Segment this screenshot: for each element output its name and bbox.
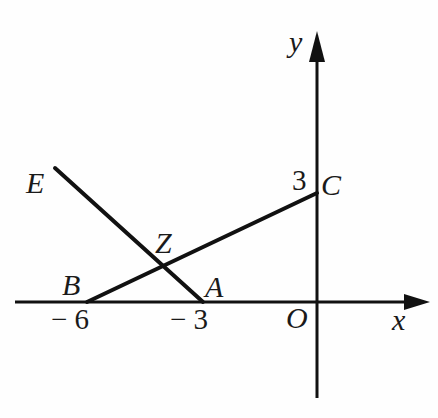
tick-label-3: 3 bbox=[292, 166, 307, 195]
origin-label: O bbox=[286, 303, 308, 333]
y-axis-label: y bbox=[289, 27, 302, 57]
point-label-a: A bbox=[205, 272, 223, 302]
segment-bc bbox=[87, 193, 317, 302]
tick-label-minus-6: − 6 bbox=[51, 305, 89, 334]
diagram-canvas bbox=[0, 0, 438, 418]
point-label-b: B bbox=[62, 270, 80, 300]
point-label-c: C bbox=[321, 170, 341, 200]
y-axis-arrowhead bbox=[309, 31, 325, 62]
geometry-figure: E B Z A C O x y − 6 − 3 3 bbox=[0, 0, 438, 418]
tick-label-minus-3: − 3 bbox=[170, 305, 208, 334]
x-axis-arrowhead bbox=[404, 294, 430, 310]
point-label-z: Z bbox=[155, 228, 172, 258]
point-label-e: E bbox=[26, 168, 44, 198]
x-axis-label: x bbox=[392, 305, 405, 335]
